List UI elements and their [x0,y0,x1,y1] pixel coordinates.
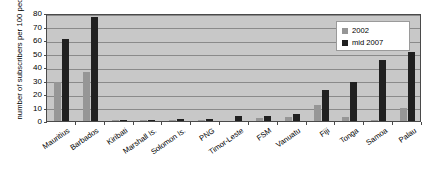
x-tick-mark [421,122,422,125]
y-tick-label: 50 [24,51,42,59]
legend-item-mid-2007: mid 2007 [342,37,409,49]
legend-label-2002: 2002 [352,27,369,35]
bar-group [278,15,307,121]
x-tick-label: Vanuatu [274,126,302,149]
x-tick-label: Tonga [338,126,360,145]
bar [206,119,213,121]
bar-group [249,15,278,121]
y-tick-label: 70 [24,24,42,32]
bar [177,119,184,121]
bar [408,52,415,121]
y-tick-label: 0 [24,118,42,126]
x-tick-mark [277,122,278,125]
x-tick-mark [363,122,364,125]
y-tick-mark [44,55,47,56]
bar [54,82,61,121]
bar [314,105,321,121]
bar-chart: number of subscribers per 100 people 010… [0,0,435,183]
y-tick-mark [44,82,47,83]
x-tick-label: FSM [255,126,273,143]
y-tick-mark [44,95,47,96]
bar [91,17,98,121]
bar-group [47,15,76,121]
x-tick-mark [190,122,191,125]
bar [140,120,147,121]
x-tick-mark [392,122,393,125]
bar [198,120,205,121]
legend-item-2002: 2002 [342,25,409,37]
x-tick-label: PNG [197,126,216,143]
bar-group [134,15,163,121]
x-tick-mark [306,122,307,125]
bar [83,72,90,121]
bar [293,114,300,121]
y-tick-label: 60 [24,37,42,45]
bar-group [162,15,191,121]
bar-group [307,15,336,121]
bar [400,108,407,122]
bar [379,60,386,121]
x-tick-mark [248,122,249,125]
bar [120,120,127,121]
x-tick-mark [219,122,220,125]
bar-group [76,15,105,121]
bar [256,118,263,121]
y-axis-tick-labels: 01020304050607080 [20,0,42,183]
x-tick-label: Fiji [318,126,331,139]
x-tick-mark [161,122,162,125]
x-tick-label: Palau [397,126,418,145]
legend-swatch-mid-2007 [342,40,348,46]
x-tick-label: Samoa [364,126,389,147]
y-tick-label: 10 [24,105,42,113]
y-tick-mark [44,68,47,69]
y-tick-label: 40 [24,64,42,72]
x-tick-mark [75,122,76,125]
y-tick-label: 80 [24,10,42,18]
bar [112,120,119,121]
bar [264,116,271,121]
y-tick-label: 20 [24,91,42,99]
bar [235,116,242,121]
y-tick-mark [44,122,47,123]
x-tick-mark [334,122,335,125]
bar-group [191,15,220,121]
bar [285,117,292,121]
y-tick-mark [44,28,47,29]
x-tick-label: Mauritius [41,126,71,151]
legend-label-mid-2007: mid 2007 [352,39,383,47]
legend-swatch-2002 [342,28,348,34]
x-tick-mark [104,122,105,125]
bar [350,82,357,121]
y-tick-mark [44,14,47,15]
bar-group [105,15,134,121]
bar [371,120,378,121]
x-tick-mark [133,122,134,125]
bar-group [220,15,249,121]
bar [342,117,349,121]
y-tick-label: 30 [24,78,42,86]
bar [62,39,69,121]
y-tick-mark [44,41,47,42]
y-tick-mark [44,109,47,110]
bar [148,120,155,121]
x-tick-label: Barbados [69,126,101,152]
bar [322,90,329,121]
bar [169,120,176,121]
chart-legend: 2002 mid 2007 [336,21,410,51]
